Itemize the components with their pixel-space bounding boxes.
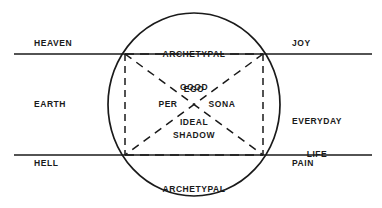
- label-archetypal-good-line1: ARCHETYPAL: [163, 49, 226, 60]
- label-hell: HELL: [34, 158, 58, 169]
- label-sona: SONA: [209, 99, 236, 110]
- label-pain: PAIN: [292, 158, 314, 169]
- label-joy: JOY: [292, 38, 311, 49]
- label-everyday-life-line1: EVERYDAY: [292, 116, 342, 127]
- label-shadow: SHADOW: [173, 130, 215, 141]
- label-heaven: HEAVEN: [34, 38, 72, 49]
- label-earth: EARTH: [34, 99, 66, 110]
- label-per: PER: [158, 99, 177, 110]
- label-archetypal-evil: ARCHETYPAL EVIL: [163, 162, 226, 208]
- diagram-canvas: HEAVEN EARTH HELL JOY EVERYDAY LIFE PAIN…: [0, 0, 382, 208]
- label-ego-ideal-line2: IDEAL: [180, 117, 208, 128]
- label-ego-ideal-line1: EGO: [180, 84, 208, 95]
- label-archetypal-evil-line1: ARCHETYPAL: [163, 184, 226, 195]
